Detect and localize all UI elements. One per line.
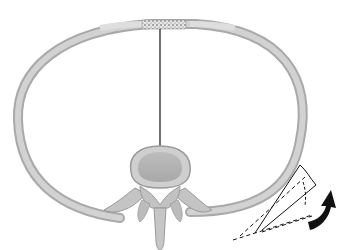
rotation-arrow-icon [308,190,336,230]
articular-process-left [138,200,150,222]
sternum [142,20,186,29]
spinous-process [154,208,166,250]
thorax-diagram [0,0,348,250]
vertebral-body-core [138,152,182,182]
dashed-reference-line [233,215,312,240]
articular-process-right [170,200,182,222]
angle-arc [303,182,306,205]
angle-cap [300,165,316,185]
diagram-canvas [0,0,348,250]
